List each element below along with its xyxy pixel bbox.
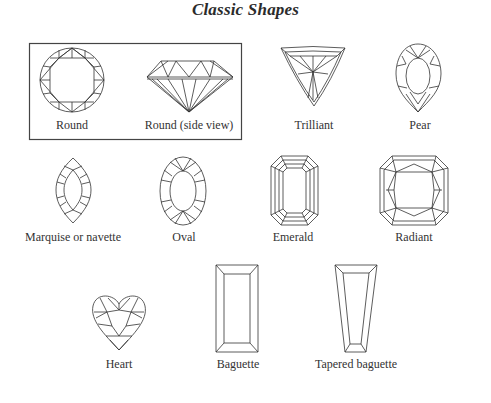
label-heart: Heart xyxy=(106,357,133,372)
round-shape xyxy=(40,48,104,112)
shapes-diagram xyxy=(0,0,491,403)
baguette-shape xyxy=(216,265,258,352)
label-oval: Oval xyxy=(172,230,195,245)
label-round: Round xyxy=(56,118,88,133)
label-tapered-baguette: Tapered baguette xyxy=(315,357,397,372)
marquise-shape xyxy=(56,158,91,223)
tapered-baguette-shape xyxy=(335,265,377,352)
round-side-view-shape xyxy=(147,61,233,112)
pear-shape xyxy=(396,44,441,112)
trilliant-shape xyxy=(281,47,345,107)
oval-shape xyxy=(160,157,206,225)
radiant-shape xyxy=(380,156,448,225)
emerald-shape xyxy=(271,156,318,225)
label-pear: Pear xyxy=(409,118,430,133)
label-baguette: Baguette xyxy=(217,357,260,372)
heart-shape xyxy=(93,296,146,350)
label-radiant: Radiant xyxy=(395,230,432,245)
label-round-side-view: Round (side view) xyxy=(145,118,234,133)
label-trilliant: Trilliant xyxy=(295,118,334,133)
label-emerald: Emerald xyxy=(273,230,314,245)
label-marquise: Marquise or navette xyxy=(25,230,121,245)
